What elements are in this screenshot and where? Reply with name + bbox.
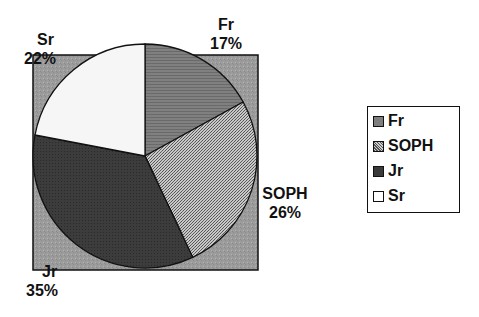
label-pct: 17% bbox=[200, 34, 252, 53]
label-pct: 22% bbox=[24, 49, 72, 68]
label-name: Jr bbox=[26, 262, 70, 281]
legend-item-sr: Sr bbox=[373, 185, 405, 207]
label-pct: 26% bbox=[255, 203, 315, 222]
label-name: Sr bbox=[24, 30, 72, 49]
swatch-jr-icon bbox=[373, 166, 384, 177]
data-label-jr: Jr 35% bbox=[26, 262, 70, 300]
legend-label: Jr bbox=[388, 162, 403, 180]
legend-item-jr: Jr bbox=[373, 160, 403, 182]
legend-label: Fr bbox=[388, 112, 404, 130]
swatch-soph-icon bbox=[373, 141, 384, 152]
data-label-sr: Sr 22% bbox=[24, 30, 72, 68]
legend-label: Sr bbox=[388, 187, 405, 205]
data-label-soph: SOPH 26% bbox=[255, 184, 315, 222]
swatch-fr-icon bbox=[373, 116, 384, 127]
legend: Fr SOPH Jr Sr bbox=[367, 106, 460, 213]
legend-item-soph: SOPH bbox=[373, 135, 433, 157]
pie-slices bbox=[33, 44, 257, 268]
swatch-sr-icon bbox=[373, 191, 384, 202]
legend-item-fr: Fr bbox=[373, 110, 404, 132]
label-name: SOPH bbox=[255, 184, 315, 203]
label-name: Fr bbox=[200, 15, 252, 34]
label-pct: 35% bbox=[26, 281, 70, 300]
data-label-fr: Fr 17% bbox=[200, 15, 252, 53]
legend-label: SOPH bbox=[388, 137, 433, 155]
